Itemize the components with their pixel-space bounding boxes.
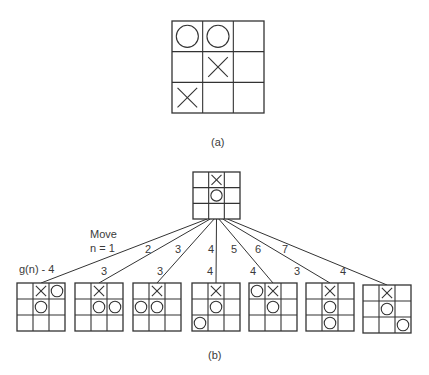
board-frame bbox=[306, 283, 354, 331]
edge-label-3: 3 bbox=[175, 244, 181, 255]
board-child-7 bbox=[363, 285, 411, 333]
tree-edge bbox=[41, 219, 207, 283]
board-child-1 bbox=[17, 283, 65, 331]
tree-edge bbox=[223, 219, 330, 283]
tree-edge bbox=[216, 219, 217, 283]
g-label-2: 3 bbox=[101, 266, 107, 277]
g-label-7: 4 bbox=[340, 266, 346, 277]
board-child-3 bbox=[133, 283, 181, 331]
edge-label-2: 2 bbox=[145, 244, 151, 255]
board-frame bbox=[193, 172, 240, 219]
edge-label-5: 5 bbox=[231, 244, 237, 255]
board-frame bbox=[17, 283, 65, 331]
g-label-3: 3 bbox=[157, 266, 163, 277]
edge-label-7: 7 bbox=[282, 244, 288, 255]
edge-label-6: 6 bbox=[255, 244, 261, 255]
edge-label-4: 4 bbox=[208, 244, 214, 255]
caption-a: (a) bbox=[211, 137, 224, 148]
board-frame bbox=[363, 285, 411, 333]
board-child-5 bbox=[249, 283, 297, 331]
move-label: Move bbox=[90, 229, 117, 240]
board-frame bbox=[133, 283, 181, 331]
board-child-6 bbox=[306, 283, 354, 331]
g-label-5: 4 bbox=[250, 266, 256, 277]
g-of-n-label: g(n) - 4 bbox=[19, 264, 54, 275]
board-frame bbox=[75, 283, 123, 331]
g-label-4: 4 bbox=[207, 266, 213, 277]
move-n-label: n = 1 bbox=[90, 243, 115, 254]
board-child-2 bbox=[75, 283, 123, 331]
board-a bbox=[172, 21, 264, 113]
board-child-4 bbox=[192, 283, 240, 331]
board-frame bbox=[249, 283, 297, 331]
caption-b: (b) bbox=[208, 350, 221, 361]
board-frame bbox=[192, 283, 240, 331]
tree-edge bbox=[219, 219, 273, 283]
game-tree-diagram bbox=[0, 0, 429, 375]
board-root bbox=[193, 172, 240, 219]
tree-edge bbox=[157, 219, 214, 283]
g-label-6: 3 bbox=[294, 266, 300, 277]
